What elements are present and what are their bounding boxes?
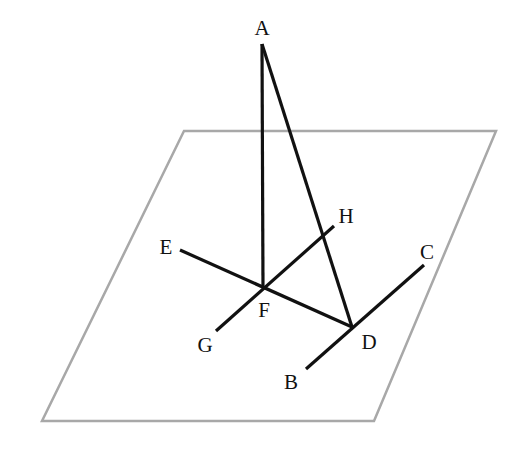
label-H: H [338,204,353,228]
label-F: F [258,298,270,322]
label-G: G [197,333,212,357]
segment-GH [216,226,334,331]
label-B: B [284,370,298,394]
label-C: C [420,240,434,264]
label-E: E [160,235,173,259]
segment-AD [262,44,352,327]
label-A: A [254,16,270,40]
plane [42,131,496,421]
segment-AF [262,44,263,287]
label-D: D [361,330,376,354]
geometry-diagram: A E F G H C D B [0,0,529,464]
